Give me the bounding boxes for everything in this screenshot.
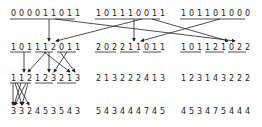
row4-group2: 543444745 (96, 108, 168, 116)
row2-group2: 202211011 (96, 44, 168, 52)
row1-group1: 000011011 (11, 10, 83, 18)
row2-group1: 101112011 (11, 44, 83, 52)
row4-group1: 332453543 (11, 108, 83, 116)
row3-group2: 213222413 (96, 75, 168, 83)
row4-group3: 453475444 (181, 108, 253, 116)
row3-group1: 112123213 (11, 75, 83, 83)
row2-group3: 101121022 (181, 44, 253, 52)
row1-group3: 101101000 (181, 10, 253, 18)
row1-group2: 101110011 (96, 10, 168, 18)
row3-group3: 123143222 (181, 75, 253, 83)
